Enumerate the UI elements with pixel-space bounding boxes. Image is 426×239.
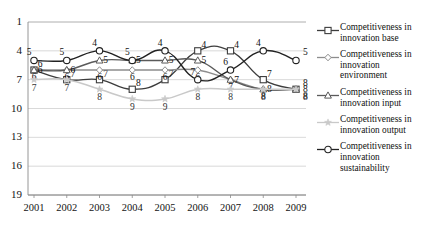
star-marker-icon (316, 115, 340, 128)
legend-item-1[interactable]: Competitiveness in innovation base (316, 22, 426, 43)
legend-label: Competitiveness in innovation environmen… (340, 49, 426, 81)
data-point-marker (96, 86, 103, 93)
circle-marker-icon (316, 142, 340, 155)
data-point-marker (195, 76, 201, 82)
data-point-marker (129, 57, 135, 63)
data-point-marker (260, 77, 266, 83)
legend-label: Competitiveness in innovation base (340, 22, 426, 43)
y-axis-tick-label: 4 (0, 44, 22, 56)
data-label: 6 (130, 72, 135, 82)
legend-item-3[interactable]: Competitiveness in innovation input (316, 87, 426, 108)
data-label: 6 (70, 65, 75, 75)
data-label: 9 (130, 102, 135, 112)
legend-label: Competitiveness in innovation input (340, 87, 426, 108)
data-label: 8 (261, 92, 266, 102)
data-point-marker (194, 86, 201, 93)
data-label: 9 (163, 102, 168, 112)
data-point-marker (325, 147, 331, 153)
legend-item-4[interactable]: Competitiveness in innovation output (316, 114, 426, 135)
y-axis-tick-label: 7 (0, 73, 22, 85)
data-label: 7 (267, 69, 272, 79)
data-label: 5 (59, 47, 64, 57)
data-label: 5 (169, 55, 174, 65)
data-point-marker (96, 48, 102, 54)
data-label: 5 (103, 55, 108, 65)
data-point-marker (129, 86, 135, 92)
data-label: 8 (195, 92, 200, 102)
diamond-marker-icon (316, 50, 340, 63)
legend-item-5[interactable]: Competitiveness in innovation sustainabi… (316, 141, 426, 173)
data-label: 7 (32, 83, 37, 93)
data-point-marker (325, 54, 331, 61)
data-label: 4 (92, 38, 97, 48)
data-label: 7 (234, 75, 239, 85)
data-label: 6 (163, 72, 168, 82)
data-label: 7 (190, 67, 195, 77)
data-point-marker (325, 119, 332, 126)
y-axis-tick-label: 13 (0, 130, 22, 142)
data-point-marker (31, 57, 37, 63)
data-label: 4 (234, 40, 239, 50)
data-label: 4 (256, 38, 261, 48)
y-axis-tick-label: 16 (0, 159, 22, 171)
triangle-marker-icon (316, 88, 340, 101)
square-marker-icon (316, 23, 340, 36)
legend-item-2[interactable]: Competitiveness in innovation environmen… (316, 49, 426, 81)
data-label: 8 (303, 92, 308, 102)
data-label: 6 (38, 65, 43, 75)
data-point-marker (162, 95, 169, 102)
chart-root: 6778744786666667886655557887789988885545… (0, 0, 426, 239)
data-point-marker (260, 48, 266, 54)
y-axis-tick-label: 19 (0, 188, 22, 200)
data-label: 5 (303, 47, 308, 57)
data-point-marker (129, 95, 136, 102)
data-label: 8 (228, 92, 233, 102)
data-label: 4 (158, 38, 163, 48)
data-point-marker (227, 48, 233, 54)
y-axis-tick-label: 1 (0, 15, 22, 27)
data-label: 5 (125, 47, 130, 57)
data-point-marker (227, 67, 233, 73)
data-label: 6 (223, 57, 228, 67)
x-axis-tick-label: 2009 (276, 202, 316, 213)
legend-label: Competitiveness in innovation output (340, 114, 426, 135)
y-axis-tick-label: 10 (0, 102, 22, 114)
data-label: 5 (27, 47, 32, 57)
data-label: 7 (64, 83, 69, 93)
data-point-marker (325, 27, 331, 33)
data-label: 8 (136, 78, 141, 88)
data-label: 8 (97, 92, 102, 102)
data-label: 5 (201, 55, 206, 65)
data-point-marker (64, 57, 70, 63)
data-point-marker (195, 48, 201, 54)
chart-legend: Competitiveness in innovation baseCompet… (316, 22, 426, 179)
data-label: 6 (97, 72, 102, 82)
data-point-marker (162, 48, 168, 54)
data-point-marker (293, 57, 299, 63)
data-label: 4 (201, 40, 206, 50)
legend-label: Competitiveness in innovation sustainabi… (340, 141, 426, 173)
